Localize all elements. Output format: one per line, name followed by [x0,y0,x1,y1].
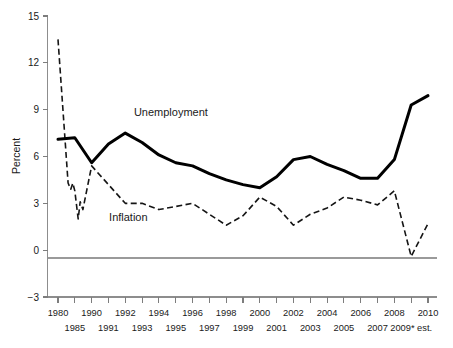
series-line-inflation [58,39,428,256]
series-line-unemployment [58,96,428,188]
x-tick-label: 2007 [367,323,388,333]
x-tick-label: 1993 [132,323,153,333]
y-tick-label: 12 [28,57,40,68]
x-tick-label: 1995 [165,323,186,333]
y-axis-title: Percent [10,138,22,174]
unemployment-inflation-line-chart: Percent −303691215 198019851990199119921… [0,0,453,348]
x-tick-label: 1994 [149,308,170,318]
series-label-unemployment: Unemployment [134,106,208,118]
x-tick-label: 2004 [317,308,338,318]
x-tick-label: 2003 [300,323,321,333]
y-axis-ticks: −303691215 [28,11,48,303]
x-tick-label: 2006 [350,308,371,318]
x-tick-label: 2002 [283,308,304,318]
x-tick-label: 1991 [98,323,119,333]
x-tick-label: 2000 [249,308,270,318]
chart-container: Percent −303691215 198019851990199119921… [0,0,453,348]
x-tick-label: 2005 [334,323,355,333]
y-tick-label: 3 [33,198,39,209]
x-tick-label: 2009* est. [390,323,432,333]
x-tick-label: 1992 [115,308,136,318]
x-axis-labels: 1980198519901991199219931994199519961997… [48,308,439,333]
y-tick-label: 6 [33,151,39,162]
x-tick-label: 1985 [64,323,85,333]
x-axis-ticks [58,297,428,303]
y-tick-label: 9 [33,104,39,115]
x-tick-label: 1990 [81,308,102,318]
x-tick-label: 1997 [199,323,220,333]
x-tick-label: 2010 [418,308,439,318]
x-tick-label: 2008 [384,308,405,318]
y-tick-label: 15 [28,11,40,22]
x-tick-label: 1999 [233,323,254,333]
y-tick-label: 0 [33,245,39,256]
x-tick-label: 2001 [266,323,287,333]
x-tick-label: 1996 [182,308,203,318]
series-label-inflation: Inflation [109,211,148,223]
x-tick-label: 1980 [48,308,69,318]
x-tick-label: 1998 [216,308,237,318]
y-tick-label: −3 [28,292,40,303]
